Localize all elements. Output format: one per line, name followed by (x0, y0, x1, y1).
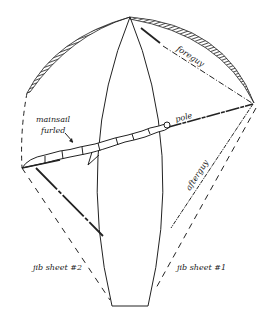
spinnaker-left-leech-dashed (22, 93, 27, 168)
sailing-rig-diagram: mainsail furled foreguy pole afterguy ji… (0, 0, 269, 316)
label-jib-sheet-2: jib sheet #2 (31, 263, 82, 272)
boom-line (36, 168, 103, 236)
mainsail-pointer-arrow (65, 133, 73, 143)
label-foreguy: foreguy (174, 44, 206, 69)
label-furled: furled (40, 126, 65, 135)
label-afterguy: afterguy (184, 158, 210, 192)
label-pole: pole (174, 111, 193, 124)
spinnaker-head-left-shaded (27, 17, 130, 93)
label-jib-sheet-1: jib sheet #1 (175, 263, 226, 272)
foreguy-line (141, 28, 160, 43)
jib-right-luff (130, 17, 163, 306)
jib-left-luff (97, 17, 130, 306)
label-mainsail: mainsail (36, 115, 71, 124)
